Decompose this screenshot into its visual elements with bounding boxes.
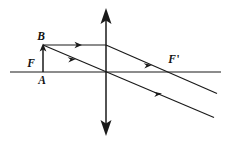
label-object-top-B: B xyxy=(36,30,45,42)
refracted-ray-through-focal-point xyxy=(106,45,217,94)
label-F-prime-letter: F xyxy=(167,53,176,65)
label-object-base-A: A xyxy=(37,74,46,86)
label-focal-point-F: F xyxy=(26,57,35,69)
label-F-prime-mark: ' xyxy=(176,53,179,65)
label-focal-point-F-prime: F' xyxy=(167,53,179,65)
ray-diagram-canvas: B A F F' xyxy=(0,0,231,144)
optics-ray-diagram: B A F F' xyxy=(0,0,231,144)
